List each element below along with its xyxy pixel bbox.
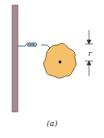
- diagram-figure: r (a): [0, 0, 104, 138]
- figure-caption: (a): [0, 119, 104, 128]
- dimension-label: r: [88, 49, 93, 58]
- diagram-svg: r: [0, 0, 104, 138]
- coil-spring: [18, 43, 50, 48]
- pivot-point: [59, 61, 62, 64]
- wall: [12, 5, 18, 112]
